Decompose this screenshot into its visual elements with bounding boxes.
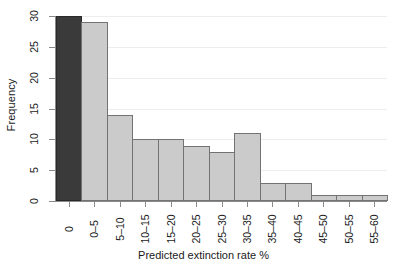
plot-area bbox=[56, 16, 387, 201]
y-axis-tick-label-text: 0 bbox=[28, 198, 40, 204]
x-axis-tick-label-text: 0 bbox=[63, 226, 75, 232]
x-axis-tick-label: 50–55 bbox=[342, 205, 356, 249]
histogram-bar[interactable] bbox=[183, 146, 209, 202]
x-axis-tick-labels: 00–55–1010–1515–2020–2525–3030–3535–4040… bbox=[0, 205, 407, 249]
x-axis-tick-label-text: 30–35 bbox=[241, 214, 253, 243]
x-axis-tick-label-text: 25–30 bbox=[216, 214, 228, 243]
x-axis-tick-label-text: 55–60 bbox=[368, 214, 380, 243]
x-axis-tick-label-text: 45–50 bbox=[317, 214, 329, 243]
x-axis-tick-label-text: 20–25 bbox=[190, 214, 202, 243]
x-axis-tick-label: 0–5 bbox=[87, 205, 101, 249]
x-axis-tick-label: 45–50 bbox=[316, 205, 330, 249]
y-axis-tick-label: 15 bbox=[22, 103, 46, 115]
y-axis-tick-label-text: 25 bbox=[28, 41, 40, 53]
y-axis-tick-label: 25 bbox=[22, 41, 46, 53]
y-axis-tick-label-text: 20 bbox=[28, 72, 40, 84]
x-axis-title: Predicted extinction rate % bbox=[0, 249, 407, 261]
x-axis-tick-label-text: 40–45 bbox=[292, 214, 304, 243]
x-axis-tick-label: 0 bbox=[62, 205, 76, 249]
x-axis-tick-label: 10–15 bbox=[138, 205, 152, 249]
histogram-bar[interactable] bbox=[311, 195, 337, 201]
y-axis-tick-label-text: 10 bbox=[28, 133, 40, 145]
x-axis-tick-label: 15–20 bbox=[164, 205, 178, 249]
x-axis-tick-label: 5–10 bbox=[113, 205, 127, 249]
y-axis-tick-label: 10 bbox=[22, 133, 46, 145]
histogram-bar[interactable] bbox=[234, 133, 260, 201]
y-axis-tick-label-text: 5 bbox=[28, 167, 40, 173]
histogram-bar[interactable] bbox=[285, 183, 311, 202]
histogram-bar[interactable] bbox=[56, 16, 82, 201]
histogram-bar[interactable] bbox=[158, 139, 184, 201]
y-axis-tick-mark bbox=[49, 201, 55, 202]
x-axis-tick-label-text: 35–40 bbox=[266, 214, 278, 243]
y-axis-tick-mark bbox=[49, 170, 55, 171]
y-axis-tick-label-text: 15 bbox=[28, 103, 40, 115]
histogram-bar[interactable] bbox=[107, 115, 133, 201]
x-axis-tick-label: 30–35 bbox=[240, 205, 254, 249]
histogram-bar[interactable] bbox=[362, 195, 388, 201]
x-axis-tick-label-text: 0–5 bbox=[88, 220, 100, 238]
x-axis-tick-label-text: 5–10 bbox=[114, 217, 126, 240]
x-axis-tick-label: 20–25 bbox=[189, 205, 203, 249]
y-axis-tick-mark bbox=[49, 139, 55, 140]
y-axis-tick-label: 5 bbox=[22, 164, 46, 176]
x-axis-line bbox=[55, 201, 387, 202]
y-axis-tick-mark bbox=[49, 78, 55, 79]
x-axis-tick-label: 40–45 bbox=[291, 205, 305, 249]
x-axis-tick-label: 25–30 bbox=[215, 205, 229, 249]
histogram-bar[interactable] bbox=[132, 139, 158, 201]
x-axis-tick-label: 55–60 bbox=[367, 205, 381, 249]
y-axis-tick-label: 30 bbox=[22, 10, 46, 22]
histogram-bar[interactable] bbox=[209, 152, 235, 201]
histogram-bar[interactable] bbox=[336, 195, 362, 201]
histogram-bar[interactable] bbox=[81, 22, 107, 201]
y-axis-tick-mark bbox=[49, 16, 55, 17]
histogram-figure: Frequency 051015202530 00–55–1010–1515–2… bbox=[0, 0, 407, 269]
y-axis-title-text: Frequency bbox=[5, 79, 17, 132]
x-axis-tick-label-text: 50–55 bbox=[343, 214, 355, 243]
histogram-bar[interactable] bbox=[260, 183, 286, 202]
y-axis-tick-mark bbox=[49, 47, 55, 48]
y-axis-tick-label-text: 30 bbox=[28, 10, 40, 22]
y-axis-tick-mark bbox=[49, 109, 55, 110]
x-axis-tick-label: 35–40 bbox=[265, 205, 279, 249]
y-axis-title: Frequency bbox=[0, 0, 22, 210]
y-axis-tick-label: 20 bbox=[22, 72, 46, 84]
x-axis-tick-label-text: 15–20 bbox=[165, 214, 177, 243]
x-axis-tick-label-text: 10–15 bbox=[139, 214, 151, 243]
